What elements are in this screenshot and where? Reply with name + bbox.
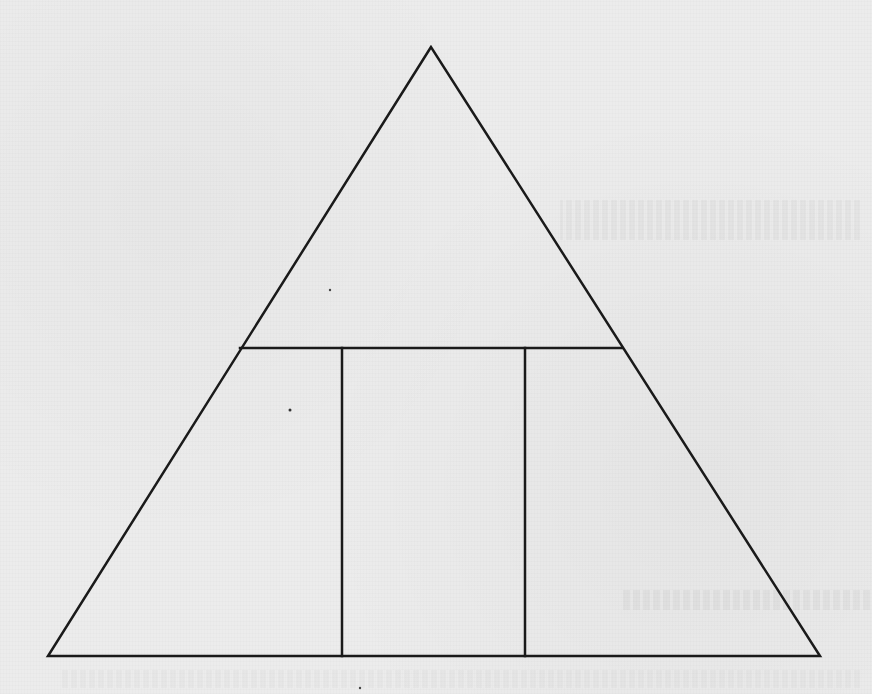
scan-speck <box>289 409 292 412</box>
outer-triangle <box>48 47 820 656</box>
partitioned-triangle-diagram <box>0 0 872 694</box>
scan-speck <box>359 687 361 689</box>
scan-speck <box>329 289 331 291</box>
